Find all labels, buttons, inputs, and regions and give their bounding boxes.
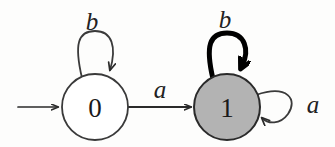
transition-loop-state0-b [78,31,113,78]
state-label-1: 1 [220,93,234,123]
state-node-1[interactable]: 1 [194,74,260,140]
transition-loop-state1-b [209,33,245,79]
edge-label-loop-state1-b: b [219,6,232,33]
edge-label-state0-state1-a: a [154,76,167,103]
edge-label-loop-state1-a: a [307,91,320,118]
state-node-0[interactable]: 0 [62,74,128,140]
automaton-diagram: 0 1 b a b a [0,0,335,147]
state-label-0: 0 [88,93,102,123]
edge-label-loop-state0-b: b [86,8,99,35]
transition-loop-state1-a [256,91,292,122]
